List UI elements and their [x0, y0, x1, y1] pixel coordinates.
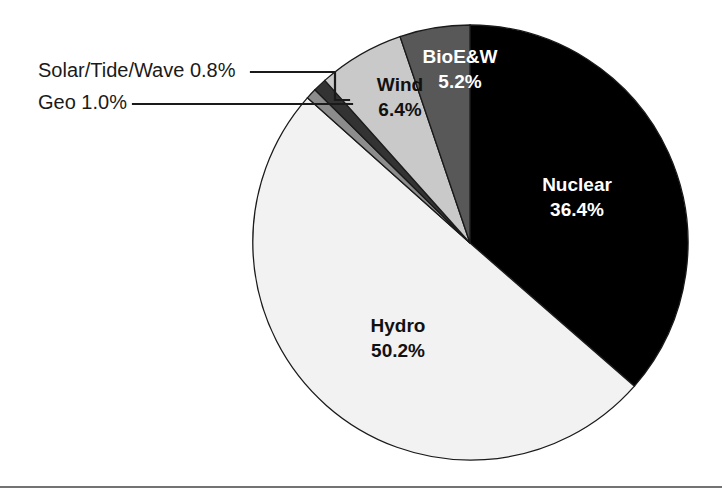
slice-label-wind-name: Wind	[377, 74, 423, 95]
slice-label-bioew-value: 5.2%	[438, 71, 481, 92]
pie-chart-figure: Nuclear 36.4% Hydro 50.2% Wind 6.4% BioE…	[0, 0, 722, 495]
slice-label-hydro-value: 50.2%	[371, 340, 425, 361]
slice-label-hydro-name: Hydro	[371, 315, 426, 336]
slice-label-bioew-name: BioE&W	[423, 46, 498, 67]
pie-chart-canvas: Nuclear 36.4% Hydro 50.2% Wind 6.4% BioE…	[0, 0, 722, 495]
callout-labels: Solar/Tide/Wave 0.8% Geo 1.0%	[38, 59, 236, 113]
callout-label-geo: Geo 1.0%	[38, 91, 127, 113]
slice-label-nuclear-value: 36.4%	[550, 199, 604, 220]
slice-label-wind-value: 6.4%	[378, 99, 421, 120]
slice-label-nuclear-name: Nuclear	[542, 174, 612, 195]
leader-line-solar-tide-wave	[251, 72, 349, 100]
callout-label-solar-tide-wave: Solar/Tide/Wave 0.8%	[38, 59, 236, 81]
